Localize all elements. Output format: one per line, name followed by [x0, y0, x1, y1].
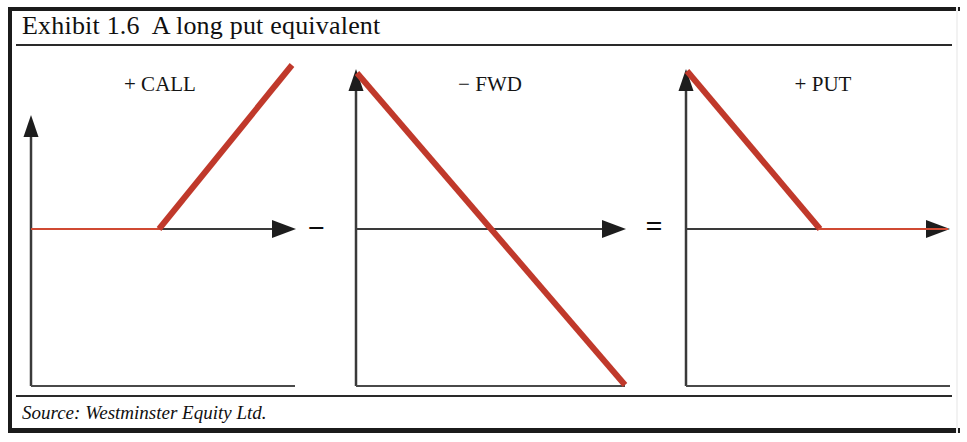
- panel-label-long-put: + PUT: [758, 72, 888, 96]
- panel-long-put: + PUT: [660, 55, 967, 395]
- panel-label-long-call: + CALL: [95, 72, 225, 96]
- y-axis-short-forward: [349, 69, 364, 386]
- exhibit-title: Exhibit 1.6 A long put equivalent: [22, 11, 381, 41]
- long-put-plot: [660, 55, 967, 395]
- operator-minus: −: [300, 213, 332, 243]
- panel-short-forward: − FWD: [330, 55, 660, 395]
- y-axis-long-put: [679, 69, 694, 386]
- title-divider-rule: [16, 44, 952, 46]
- exhibit-source: Source: Westminster Equity Ltd.: [22, 401, 267, 425]
- y-axis-long-call: [24, 115, 39, 386]
- frame-bottom-border: [8, 428, 960, 433]
- panel-label-short-forward: − FWD: [420, 72, 560, 96]
- source-divider-rule: [16, 395, 952, 397]
- exhibit-figure: Exhibit 1.6 A long put equivalent + CALL…: [0, 0, 967, 442]
- long-call-plot: [0, 55, 330, 395]
- short-forward-plot: [330, 55, 660, 395]
- panel-long-call: + CALL: [0, 55, 330, 395]
